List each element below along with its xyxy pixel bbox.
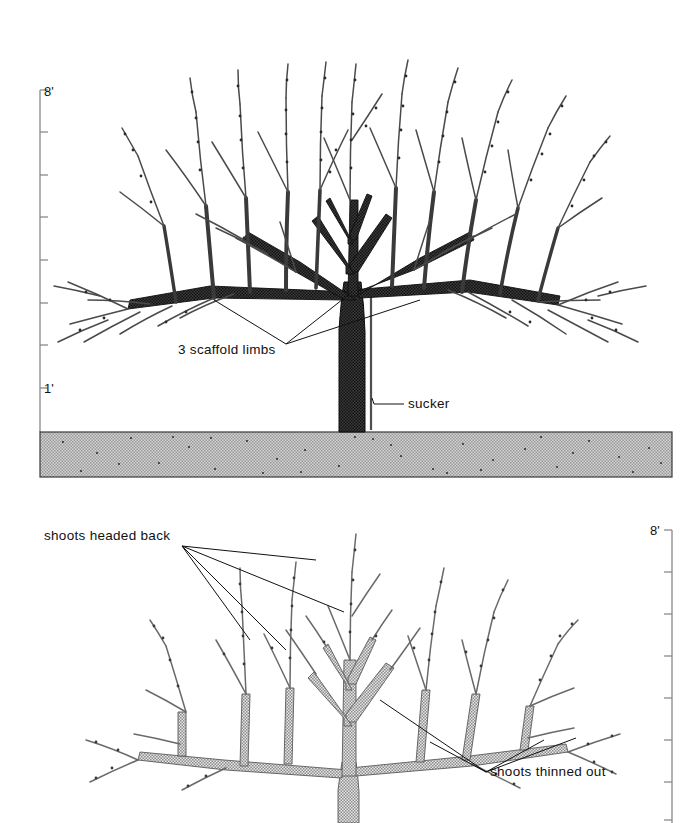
scale-label-lower-top: 8': [650, 523, 660, 538]
shoots-headed-back-label: shoots headed back: [44, 528, 170, 543]
leader-shoots-headed-back: [182, 546, 344, 650]
scale-label-upper-top: 8': [44, 84, 54, 99]
lower-panel: [86, 530, 672, 823]
soil-band: [40, 432, 672, 477]
scaffold-limbs-lower: [138, 637, 568, 778]
sucker-label: sucker: [408, 396, 450, 411]
scaffold-limbs-label: 3 scaffold limbs: [178, 342, 276, 357]
trunk-upper: [339, 282, 371, 432]
tree-pruning-figure: [0, 0, 697, 823]
scaffold-limbs-upper: [128, 194, 560, 309]
upper-panel: [40, 60, 672, 477]
scale-label-upper-bottom: 1': [44, 381, 54, 396]
figure-canvas: [0, 0, 697, 823]
scale-right: [664, 530, 672, 823]
shoots-thinned-out-label: shoots thinned out: [490, 764, 606, 779]
leader-sucker: [372, 398, 404, 404]
